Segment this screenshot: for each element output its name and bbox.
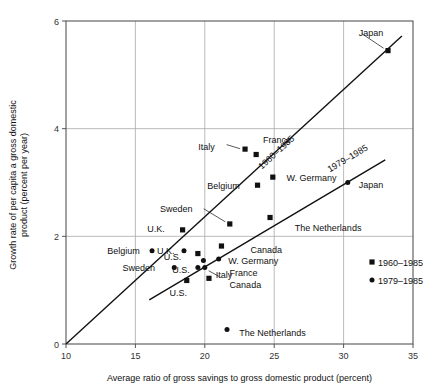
data-point-square (270, 175, 275, 180)
x-tick-label: 20 (200, 351, 210, 361)
data-point-label: Canada (230, 280, 262, 290)
x-tick-label: 10 (61, 351, 71, 361)
data-point-square (255, 183, 260, 188)
data-point-label: Sweden (160, 204, 193, 214)
legend-label: 1960–1985 (378, 258, 423, 268)
data-point-circle (181, 248, 186, 253)
data-point-label: W. Germany (228, 256, 279, 266)
data-point-square (184, 278, 189, 283)
y-tick-label: 0 (54, 340, 59, 350)
data-point-circle (225, 327, 230, 332)
data-point-label: Japan (359, 180, 384, 190)
data-point-square (180, 227, 185, 232)
data-point-square (227, 221, 232, 226)
data-point-label: Belgium (107, 246, 140, 256)
data-point-label: France (230, 268, 258, 278)
data-point-circle (150, 248, 155, 253)
scatter-chart-figure: 1960–19851979–19851015202530350246Averag… (0, 0, 440, 392)
chart-svg: 1960–19851979–19851015202530350246Averag… (0, 0, 440, 392)
data-point-label: U.K. (147, 224, 165, 234)
data-point-square (242, 147, 247, 152)
label-leader-line (227, 145, 240, 149)
data-point-label: Sweden (122, 263, 155, 273)
y-tick-label: 4 (54, 124, 59, 134)
trend-line-label: 1979–1985 (326, 143, 370, 175)
data-point-circle (202, 265, 207, 270)
data-point-label: Canada (250, 245, 282, 255)
data-point-circle (345, 180, 350, 185)
y-tick-label: 2 (54, 232, 59, 242)
y-axis-title-line1: Growth rate of per capita a gross domest… (8, 100, 18, 270)
data-point-label: U.S. (172, 265, 190, 275)
data-point-square (385, 48, 390, 53)
x-axis-title: Average ratio of gross savings to gross … (107, 373, 372, 383)
y-axis-title-line2: product (percent per year) (19, 133, 29, 237)
data-point-square (195, 251, 200, 256)
data-point-label: W. Germany (287, 173, 338, 183)
legend-marker-square (369, 259, 374, 264)
data-point-circle (195, 265, 200, 270)
data-point-square (206, 276, 211, 281)
legend-marker-circle (370, 278, 375, 283)
data-point-label: The Netherlands (239, 328, 306, 338)
data-point-label: U.S. (169, 288, 187, 298)
y-tick-label: 6 (54, 17, 59, 27)
x-tick-label: 25 (269, 351, 279, 361)
x-tick-label: 30 (339, 351, 349, 361)
data-point-square (267, 215, 272, 220)
x-tick-label: 15 (130, 351, 140, 361)
data-point-label: Japan (359, 28, 384, 38)
data-point-circle (201, 258, 206, 263)
data-point-label: Belgium (207, 181, 240, 191)
data-point-label: U.K. (157, 246, 175, 256)
data-point-square (254, 152, 259, 157)
data-point-square (219, 243, 224, 248)
data-point-circle (216, 256, 221, 261)
data-point-label: The Netherlands (295, 223, 362, 233)
data-point-label: France (263, 135, 291, 145)
x-tick-label: 35 (408, 351, 418, 361)
legend-label: 1979–1985 (378, 276, 423, 286)
data-point-label: Italy (198, 142, 215, 152)
